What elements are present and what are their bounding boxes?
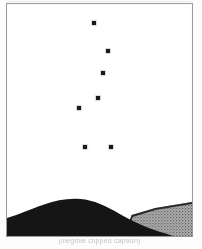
sky-dot-5 xyxy=(77,106,81,110)
figure-root: (illegible clipped caption) xyxy=(0,0,202,249)
sky-dot-1 xyxy=(92,21,96,25)
sky-dot-6 xyxy=(83,145,87,149)
sky-dot-3 xyxy=(101,71,105,75)
sky-dot-2 xyxy=(106,49,110,53)
horizon-silhouette xyxy=(7,190,192,236)
sky-dot-4 xyxy=(96,96,100,100)
page-edge-grain-top xyxy=(6,1,193,2)
figure-caption: (illegible clipped caption) xyxy=(6,239,193,245)
terrain-svg xyxy=(7,190,192,236)
caption-strip: (illegible clipped caption) xyxy=(6,239,193,249)
figure-plate xyxy=(6,3,193,237)
sky-dot-7 xyxy=(109,145,113,149)
